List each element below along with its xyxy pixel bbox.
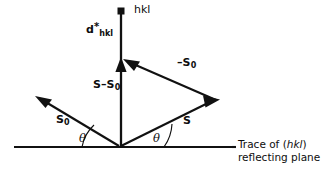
- trace-caption-hkl: hkl: [287, 138, 303, 150]
- theta-right-arc: [164, 124, 172, 147]
- minus-s0-vector-line: [131, 63, 216, 100]
- s0-text: S: [56, 113, 64, 126]
- hkl-node-marker: [118, 8, 125, 15]
- hkl-node-label: hkl: [134, 4, 150, 16]
- d-star-subscript: hkl: [99, 29, 113, 38]
- trace-caption-prefix: Trace of (: [238, 138, 287, 150]
- theta-right-label: θ: [153, 132, 160, 144]
- d-star-hkl-label: d*hkl: [86, 22, 113, 38]
- vector-diagram-figure: hkl d*hkl S–S0 –S0 S0 S θ θ Trace of (hk…: [0, 0, 330, 169]
- s-minus-s0-subscript: 0: [115, 83, 121, 92]
- trace-caption-suffix: ): [302, 138, 306, 150]
- minus-s0-subscript: 0: [191, 61, 197, 70]
- minus-s0-label: –S0: [177, 57, 196, 71]
- s-minus-s0-arrowhead: [115, 57, 126, 72]
- s0-subscript: 0: [64, 118, 70, 127]
- minus-s0-text: –S: [177, 56, 191, 69]
- s-label: S: [183, 115, 191, 127]
- s0-label: S0: [56, 114, 70, 128]
- trace-caption-line-2: reflecting plane: [238, 151, 320, 164]
- trace-caption-line-1: Trace of (hkl): [238, 138, 320, 151]
- d-star-symbol: d: [86, 23, 94, 36]
- s-minus-s0-label: S–S0: [93, 79, 120, 93]
- s0-arrowhead: [35, 96, 52, 108]
- s-vector-line: [121, 102, 210, 146]
- s-minus-s0-text: S–S: [93, 78, 115, 91]
- trace-caption: Trace of (hkl) reflecting plane: [238, 138, 320, 165]
- theta-left-label: θ: [79, 132, 86, 144]
